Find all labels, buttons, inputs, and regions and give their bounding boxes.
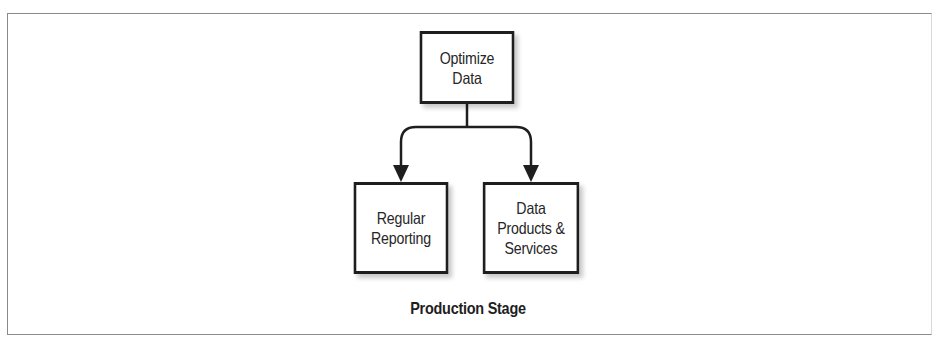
node-label: Optimize Data bbox=[440, 48, 495, 88]
diagram-caption: Production Stage bbox=[0, 299, 935, 319]
node-data-products-services: Data Products & Services bbox=[483, 182, 579, 274]
caption-text: Production Stage bbox=[410, 299, 526, 319]
node-optimize-data: Optimize Data bbox=[420, 31, 515, 104]
node-label: Regular Reporting bbox=[371, 208, 431, 248]
node-label: Data Products & Services bbox=[497, 198, 565, 258]
node-regular-reporting: Regular Reporting bbox=[354, 182, 449, 274]
